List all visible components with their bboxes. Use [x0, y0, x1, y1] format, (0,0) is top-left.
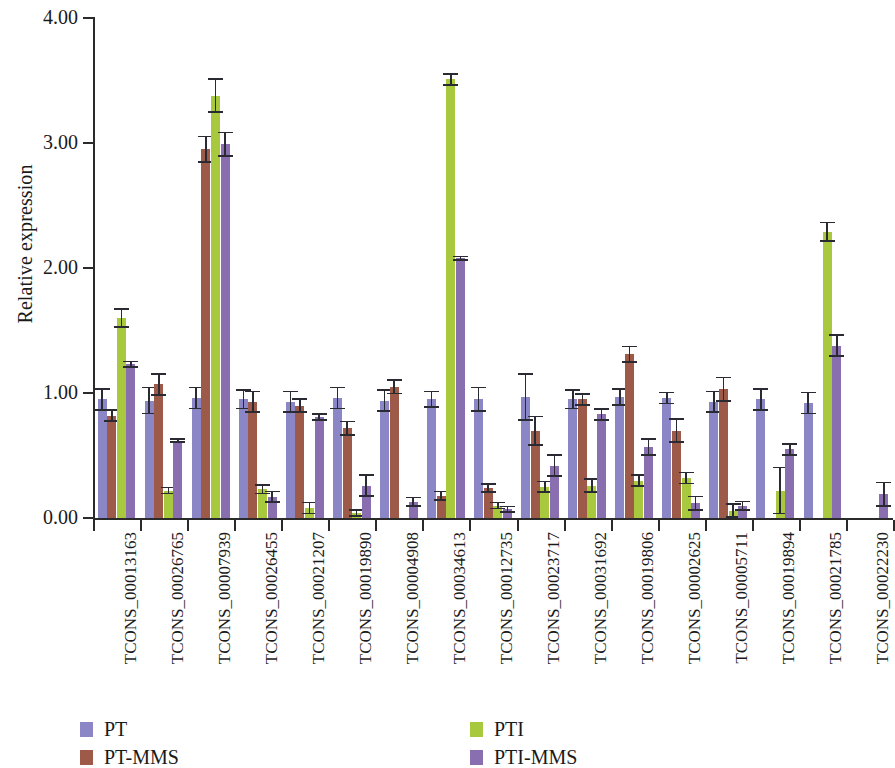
error-bar-stem — [346, 421, 348, 436]
bar — [568, 399, 577, 518]
legend-swatch — [470, 722, 483, 737]
x-tick-label: TCONS_00026765 — [171, 532, 185, 702]
error-bar — [594, 408, 609, 421]
bar-fill — [221, 144, 230, 518]
error-bar — [114, 308, 129, 328]
bar — [343, 428, 352, 518]
bar — [738, 506, 747, 519]
error-bar-stem — [723, 377, 725, 402]
error-bar — [622, 346, 637, 364]
bar-fill — [615, 397, 624, 518]
bar-fill — [832, 346, 841, 519]
bar — [315, 417, 324, 518]
error-bar — [547, 454, 562, 477]
bar-group — [187, 18, 234, 518]
x-tick-mark — [564, 520, 566, 531]
plot-area — [93, 18, 893, 518]
error-bar-stem — [619, 388, 621, 406]
bar-fill — [126, 364, 135, 518]
x-axis-line — [93, 518, 893, 520]
bar — [503, 509, 512, 518]
bar-fill — [446, 79, 455, 518]
error-bar-stem — [779, 467, 781, 515]
x-tick-label: TCONS_00026455 — [265, 532, 279, 702]
legend-item[interactable]: PT-MMS — [80, 746, 179, 768]
bar-fill — [201, 149, 210, 518]
error-bar — [245, 391, 260, 414]
error-bar-stem — [365, 474, 367, 497]
bar — [192, 398, 201, 518]
error-bar — [359, 474, 374, 497]
error-bar-stem — [148, 387, 150, 415]
bar-fill — [578, 399, 587, 518]
error-bar-stem — [836, 334, 838, 357]
x-tick-label: TCONS_00034613 — [453, 532, 467, 702]
y-tick-label: 3.00 — [0, 132, 78, 152]
bar-fill — [709, 402, 718, 518]
bar-fill — [785, 449, 794, 518]
x-tick-label: TCONS_00019890 — [359, 532, 373, 702]
x-tick-mark — [422, 520, 424, 531]
bar-group — [799, 18, 846, 518]
error-bar-stem — [638, 474, 640, 487]
error-bar-stem — [507, 506, 509, 514]
x-tick-label: TCONS_00022230 — [876, 532, 890, 702]
legend-item[interactable]: PTI-MMS — [470, 746, 577, 768]
y-tick-label: 2.00 — [0, 257, 78, 277]
bar-fill — [756, 399, 765, 518]
error-bar-stem — [205, 136, 207, 164]
bar — [117, 318, 126, 518]
bar-group — [705, 18, 752, 518]
error-bar-stem — [243, 389, 245, 409]
bar — [625, 354, 634, 518]
error-bar — [170, 438, 185, 443]
error-bar-stem — [544, 481, 546, 494]
bar-group — [469, 18, 516, 518]
error-bar — [471, 387, 486, 412]
bar — [540, 487, 549, 518]
y-tick-label: 4.00 — [0, 7, 78, 27]
error-bar-stem — [685, 472, 687, 485]
bar-group — [328, 18, 375, 518]
error-bar-stem — [450, 73, 452, 86]
error-bar-stem — [412, 497, 414, 507]
error-bar — [753, 388, 768, 411]
error-bar — [641, 438, 656, 456]
legend-item[interactable]: PTI — [470, 718, 524, 740]
error-bar-stem — [695, 496, 697, 511]
error-bar-stem — [177, 438, 179, 443]
error-bar-stem — [460, 256, 462, 261]
bar-fill — [333, 398, 342, 518]
x-tick-mark — [799, 520, 801, 531]
bar — [221, 144, 230, 518]
error-bar-stem — [111, 409, 113, 422]
error-bar — [876, 482, 891, 507]
error-bar-stem — [807, 392, 809, 415]
error-bar — [387, 379, 402, 394]
bar-fill — [286, 402, 295, 518]
x-tick-mark — [469, 520, 471, 531]
legend-swatch — [80, 722, 93, 737]
bar-fill — [390, 387, 399, 518]
error-bar-stem — [337, 387, 339, 410]
bar — [409, 502, 418, 518]
bar-fill — [597, 414, 606, 518]
error-bar-stem — [742, 501, 744, 511]
error-bar-stem — [168, 487, 170, 495]
x-tick-mark — [846, 520, 848, 531]
y-tick-label: 0.00 — [0, 507, 78, 527]
error-bar-stem — [271, 491, 273, 504]
error-bar-stem — [101, 388, 103, 411]
x-tick-mark — [187, 520, 189, 531]
x-tick-mark — [93, 520, 95, 531]
bar-fill — [823, 232, 832, 518]
bar-fill — [343, 428, 352, 518]
error-bar-stem — [158, 373, 160, 396]
x-tick-label: TCONS_00023717 — [547, 532, 561, 702]
bar — [587, 486, 596, 519]
error-bar-stem — [789, 443, 791, 456]
bar — [145, 401, 154, 519]
bar-fill — [662, 398, 671, 518]
bar — [446, 79, 455, 518]
legend-item[interactable]: PT — [80, 718, 127, 740]
